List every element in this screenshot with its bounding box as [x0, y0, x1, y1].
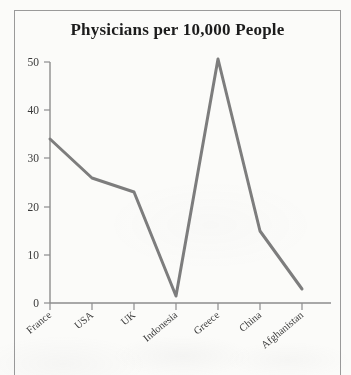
chart-figure: Physicians per 10,000 People 50 40 30 20…: [0, 0, 351, 375]
y-axis-ticks: [44, 62, 50, 303]
x-tick-label-greece: Greece: [191, 309, 221, 337]
y-tick-label-50: 50: [28, 56, 40, 68]
line-chart-plot: 50 40 30 20 10 0 France USA UK Indonesia…: [0, 0, 351, 375]
y-tick-label-20: 20: [28, 201, 40, 213]
x-tick-label-china: China: [237, 309, 264, 334]
x-tick-label-indonesia: Indonesia: [141, 309, 180, 344]
x-tick-label-usa: USA: [72, 309, 95, 331]
physicians-data-line: [50, 59, 302, 296]
x-tick-label-afghanistan: Afghanistan: [259, 309, 306, 351]
y-tick-label-0: 0: [33, 297, 39, 309]
y-tick-label-10: 10: [28, 249, 40, 261]
x-tick-label-uk: UK: [119, 309, 138, 327]
y-axis-tick-labels: 50 40 30 20 10 0: [28, 56, 40, 309]
x-tick-label-france: France: [24, 309, 53, 336]
x-axis-tick-labels: France USA UK Indonesia Greece China Afg…: [24, 309, 306, 351]
y-tick-label-40: 40: [28, 104, 40, 116]
y-tick-label-30: 30: [28, 152, 40, 164]
